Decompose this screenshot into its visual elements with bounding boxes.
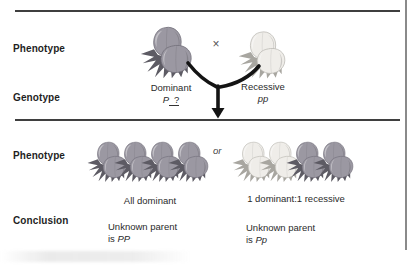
divider-line-top — [15, 10, 400, 12]
dominant-genotype-unknown: ? — [169, 94, 179, 106]
right-conclusion-line2: is Pp — [246, 234, 315, 246]
phenotype-bottom-label: Phenotype — [13, 150, 65, 161]
right-conclusion-genotype: Pp — [256, 234, 268, 245]
or-label: or — [213, 145, 221, 156]
page-border-line — [405, 0, 407, 250]
dominant-plant-icon — [167, 140, 214, 183]
conclusion-label: Conclusion — [13, 215, 68, 226]
dominant-plant-icon — [312, 140, 359, 183]
genotype-label: Genotype — [13, 92, 60, 103]
all-dominant-caption: All dominant — [86, 195, 214, 206]
dominant-genotype: P? — [140, 94, 202, 106]
phenotype-top-label: Phenotype — [13, 43, 65, 54]
left-conclusion-line1: Unknown parent — [108, 221, 177, 233]
right-conclusion: Unknown parent is Pp — [246, 222, 315, 246]
right-conclusion-line1: Unknown parent — [246, 222, 315, 234]
page-scan-shadow — [0, 251, 190, 262]
recessive-plant-icon — [237, 29, 292, 80]
divider-line-middle — [15, 119, 400, 121]
recessive-genotype-value: pp — [258, 93, 269, 104]
recessive-phenotype-caption: Recessive — [233, 81, 293, 92]
recessive-parent-plant — [237, 29, 292, 80]
left-conclusion-genotype: PP — [118, 233, 131, 244]
testcross-figure: Phenotype Genotype Phenotype Conclusion … — [0, 0, 416, 267]
right-conclusion-is: is — [246, 234, 253, 245]
left-conclusion-is: is — [108, 233, 115, 244]
dominant-parent-plant — [139, 24, 199, 80]
all-dominant-offspring-row — [86, 140, 214, 183]
mixed-offspring-row — [231, 140, 359, 183]
left-conclusion: Unknown parent is PP — [108, 221, 177, 245]
dominant-plant-icon — [139, 24, 199, 80]
ratio-caption: 1 dominant:1 recessive — [226, 193, 366, 204]
dominant-phenotype-caption: Dominant — [140, 82, 202, 93]
left-conclusion-line2: is PP — [108, 233, 177, 245]
cross-symbol: × — [207, 37, 225, 51]
recessive-genotype: pp — [233, 93, 293, 104]
